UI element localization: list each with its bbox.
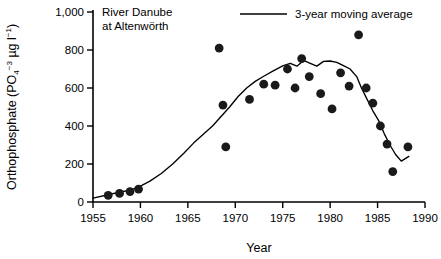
data-point <box>345 82 354 91</box>
data-point <box>316 89 325 98</box>
annotation-line-1: River Danube <box>102 6 172 18</box>
data-point <box>221 143 230 152</box>
y-axis-tick-label: 1,000 <box>55 6 84 18</box>
svg-text:Orthophosphate (PO4−3 µg l−1): Orthophosphate (PO4−3 µg l−1) <box>4 24 21 190</box>
x-axis-tick-label: 1965 <box>175 212 201 224</box>
data-point <box>259 80 268 89</box>
data-point <box>245 95 254 104</box>
data-point <box>297 54 306 63</box>
data-point <box>383 140 392 149</box>
x-axis-tick-label: 1955 <box>80 212 106 224</box>
data-point <box>404 143 413 152</box>
y-axis-title-units: µg l <box>5 37 19 61</box>
data-point <box>134 185 143 194</box>
chart-figure: 02004006008001,0001955196019651970197519… <box>0 0 441 259</box>
x-axis-tick-label: 1960 <box>128 212 154 224</box>
data-point <box>336 68 345 77</box>
data-point <box>362 84 371 93</box>
y-axis-tick-label: 0 <box>78 196 84 208</box>
orthophosphate-scatter-chart: 02004006008001,0001955196019651970197519… <box>0 0 441 259</box>
annotation-line-2: at Altenwörth <box>102 20 168 32</box>
x-axis-tick-label: 1985 <box>365 212 391 224</box>
x-axis-tick-label: 1980 <box>317 212 343 224</box>
x-axis-tick-label: 1990 <box>412 212 438 224</box>
x-axis-tick-label: 1975 <box>270 212 296 224</box>
y-axis-title: Orthophosphate (PO4−3 µg l−1) <box>4 24 21 190</box>
x-axis-title: Year <box>246 241 271 255</box>
data-point <box>115 189 124 198</box>
data-point <box>388 167 397 176</box>
y-axis-tick-label: 200 <box>65 158 84 170</box>
data-point <box>104 191 113 200</box>
data-point <box>368 99 377 108</box>
y-axis-title-close: ) <box>5 24 19 28</box>
y-axis-tick-label: 400 <box>65 120 84 132</box>
data-point <box>126 187 135 196</box>
data-point <box>283 65 292 74</box>
data-point <box>376 122 385 131</box>
data-point <box>291 84 300 93</box>
data-point <box>271 81 280 90</box>
data-point <box>215 44 224 53</box>
data-point <box>305 72 314 81</box>
y-axis-title-main: Orthophosphate (PO <box>5 74 19 190</box>
data-point <box>354 30 363 39</box>
data-point <box>219 101 228 110</box>
y-axis-tick-label: 800 <box>65 44 84 56</box>
data-point <box>328 105 337 114</box>
x-axis-tick-label: 1970 <box>222 212 248 224</box>
y-axis-tick-label: 600 <box>65 82 84 94</box>
legend-label-moving-average: 3-year moving average <box>295 8 413 20</box>
